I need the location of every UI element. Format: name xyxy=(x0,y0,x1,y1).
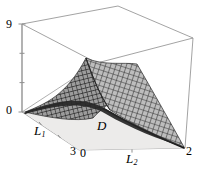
l2-axis-min-label: 0 xyxy=(80,147,86,159)
l2-axis-label-subscript: 2 xyxy=(133,158,137,167)
domain-region-label: D xyxy=(97,119,106,132)
z-axis xyxy=(19,24,26,112)
z-axis-max-label: 9 xyxy=(6,18,12,30)
box-edge-right xyxy=(185,38,193,148)
l1-axis-label: L1 xyxy=(34,124,45,139)
surface-plot-canvas xyxy=(0,0,201,176)
l2-axis-max-label: 2 xyxy=(186,145,192,157)
l1-axis-max-label: 3 xyxy=(70,145,76,157)
figure-root: 9 0 L1 3 0 L2 2 D xyxy=(0,0,201,176)
z-axis-min-label: 0 xyxy=(6,104,12,116)
l2-axis-label: L2 xyxy=(126,152,137,167)
box-top-face xyxy=(22,6,193,63)
l1-axis-label-subscript: 1 xyxy=(41,130,45,139)
